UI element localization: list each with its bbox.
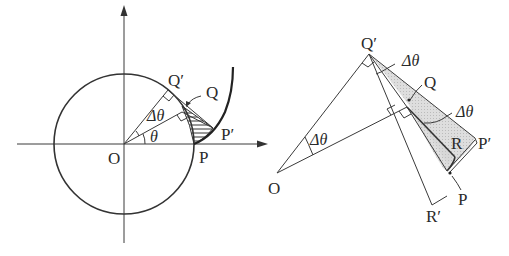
right-angle-mark-q (177, 115, 187, 121)
label-origin-left: O (108, 149, 120, 168)
label-theta-left: θ (150, 128, 158, 145)
label-p-left: P (199, 148, 208, 167)
label-delta-theta-left: Δθ (146, 107, 164, 124)
label-r-prime-right: R′ (426, 207, 441, 226)
label-q-left: Q (206, 83, 218, 102)
x-axis-arrow-icon (257, 141, 268, 148)
label-p-prime-right: P′ (478, 134, 491, 153)
diagram-canvas: O P P′ Q′ Q θ Δθ (0, 0, 509, 256)
delta-theta-arc (136, 131, 139, 136)
label-q-prime-left: Q′ (168, 71, 184, 90)
right-angle-mark-q-prime (163, 95, 174, 101)
segment-r-prime-p (432, 196, 447, 205)
label-delta-theta-mid: Δθ (455, 103, 473, 120)
y-axis-arrow-icon (121, 5, 128, 16)
leader-delta-theta-top (386, 64, 395, 69)
segment-o-q-prime (277, 54, 369, 173)
leader-delta-theta-mid (447, 113, 452, 116)
leader-p-right (452, 176, 461, 190)
right-figure: O Q′ Q R P′ R′ P Δθ Δθ Δθ (268, 34, 491, 226)
label-p-right: P (458, 190, 467, 209)
label-p-prime-left: P′ (221, 125, 234, 144)
label-delta-theta-origin: Δθ (309, 131, 327, 148)
label-q-right: Q (424, 73, 436, 92)
label-q-prime-right: Q′ (361, 34, 377, 53)
label-origin-right: O (268, 179, 280, 198)
point-q-dot (407, 98, 410, 101)
label-delta-theta-top: Δθ (401, 52, 419, 69)
point-p-dot (448, 171, 451, 174)
segment-o-q (277, 107, 407, 173)
right-angle-mark-foot-2 (399, 111, 411, 118)
theta-arc (143, 134, 145, 144)
left-figure: O P P′ Q′ Q θ Δθ (17, 5, 268, 243)
hatched-region (182, 106, 213, 144)
label-r-right: R (451, 134, 463, 153)
